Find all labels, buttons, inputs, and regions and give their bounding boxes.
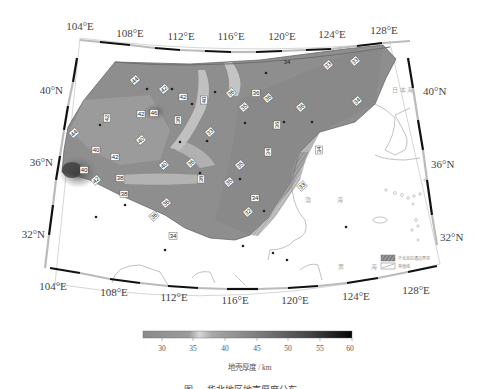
lat-tick-right-36: 36°N <box>431 158 454 170</box>
colorbar-ticks <box>162 338 352 341</box>
lon-tick-top-108: 108°E <box>116 27 144 39</box>
lon-tick-top-120: 120°E <box>268 30 296 42</box>
svg-text:42: 42 <box>112 154 119 160</box>
colorbar-tick-30: 30 <box>158 344 166 353</box>
contour-label: 38 <box>175 116 182 124</box>
lon-tick-bot-120: 120°E <box>281 294 309 306</box>
svg-text:40: 40 <box>93 147 100 153</box>
svg-text:46: 46 <box>151 110 158 116</box>
colorbar-tick-45: 45 <box>253 344 261 353</box>
svg-text:36: 36 <box>274 121 280 128</box>
lat-tick-left-32: 32°N <box>22 228 45 240</box>
colorbar-title: 地壳厚度 / km <box>150 361 350 372</box>
contour-label: 42 <box>179 94 187 101</box>
lon-labels-top: 104°E 108°E 112°E 116°E 120°E 124°E 128°… <box>66 20 398 42</box>
contour-label: 38 <box>116 175 124 182</box>
lat-tick-left-40: 40°N <box>40 84 63 96</box>
svg-text:38: 38 <box>121 191 128 197</box>
contour-label: 40 <box>80 167 88 174</box>
figure-caption: 图 — 华北地区地壳厚度分布 <box>0 383 481 389</box>
contour-label: 42 <box>137 111 145 118</box>
lon-tick-top-112: 112°E <box>167 30 194 42</box>
lat-tick-right-40: 40°N <box>423 85 446 97</box>
sea-label-yellow-1: 黄 <box>338 263 344 271</box>
contour-label: 46 <box>150 110 158 117</box>
contour-label: 38 <box>198 175 205 183</box>
sea-label-bohai-2: 海 <box>337 196 343 204</box>
lon-tick-top-124: 124°E <box>318 28 346 40</box>
contour-label: 34 <box>169 233 177 240</box>
colorbar-tick-60: 60 <box>346 344 354 353</box>
lon-tick-bot-104: 104°E <box>39 280 67 292</box>
lon-tick-bot-108: 108°E <box>100 286 128 298</box>
svg-text:42: 42 <box>138 111 145 117</box>
lat-tick-left-36: 36°N <box>30 156 53 168</box>
svg-text:34: 34 <box>252 195 259 201</box>
lon-tick-top-104: 104°E <box>66 20 94 32</box>
colorbar-gradient <box>143 331 352 338</box>
sea-label-japan: 日 本 海 <box>392 86 413 94</box>
contour-label: 34 <box>251 195 259 202</box>
colorbar-tick-50: 50 <box>284 344 292 353</box>
lat-tick-right-32: 32°N <box>440 231 463 243</box>
svg-text:36: 36 <box>253 90 260 96</box>
contour-label: 36 <box>274 121 281 129</box>
legend-label-contour: 等值线 <box>398 263 410 269</box>
lon-tick-top-128: 128°E <box>370 24 398 36</box>
contour-label: 40 <box>92 147 100 154</box>
svg-text:38: 38 <box>175 116 181 123</box>
lon-tick-top-116: 116°E <box>217 30 244 42</box>
lon-tick-bot-124: 124°E <box>342 290 370 302</box>
map-figure: 渤 海 黄 海 日 本 海 44 42 42 40 42 46 38 42 44… <box>0 0 481 389</box>
lon-tick-bot-116: 116°E <box>221 294 248 306</box>
sea-label-bohai-1: 渤 <box>305 196 311 204</box>
sea-label-yellow-2: 海 <box>371 263 377 271</box>
svg-text:34: 34 <box>265 148 271 155</box>
contour-label: 34 <box>316 146 323 154</box>
contour-label: 40 <box>201 96 208 104</box>
legend-label-boundary: 华北克拉通边界带 <box>398 255 430 261</box>
svg-text:40: 40 <box>201 96 207 103</box>
contour-label: 34 <box>284 59 291 65</box>
svg-text:40: 40 <box>81 167 88 173</box>
svg-text:34: 34 <box>170 233 177 239</box>
contour-label: 34 <box>265 148 272 156</box>
contour-label: 38 <box>120 191 128 198</box>
legend-swatch-boundary <box>381 255 395 261</box>
contour-label: 42 <box>111 154 119 161</box>
svg-text:42: 42 <box>180 94 187 100</box>
colorbar: 30 35 40 45 50 55 60 <box>143 331 354 353</box>
svg-text:38: 38 <box>198 175 204 182</box>
svg-text:38: 38 <box>117 175 124 181</box>
svg-text:42: 42 <box>104 114 110 121</box>
lon-tick-bot-128: 128°E <box>402 284 430 296</box>
colorbar-tick-40: 40 <box>221 344 229 353</box>
contour-label: 42 <box>104 114 111 122</box>
contour-label: 36 <box>252 90 260 97</box>
svg-text:34: 34 <box>316 146 322 153</box>
lon-tick-bot-112: 112°E <box>160 291 187 303</box>
lat-labels-left: 40°N 36°N 32°N <box>22 84 63 240</box>
colorbar-tick-35: 35 <box>189 344 197 353</box>
svg-text:34: 34 <box>284 59 291 65</box>
colorbar-tick-55: 55 <box>316 344 324 353</box>
